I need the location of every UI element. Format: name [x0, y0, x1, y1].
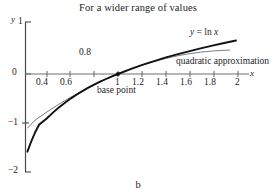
panel-caption: b — [0, 180, 276, 191]
base-point-marker — [116, 72, 120, 76]
ln-curve-annotation-x: x — [214, 27, 218, 37]
x-tick-label-1-6: 1.6 — [180, 78, 192, 88]
quadratic-curve-annotation: quadratic approximation — [176, 57, 269, 67]
ln-curve-annotation-eq: = ln — [194, 27, 214, 37]
y-tick-label-1: 1 — [18, 17, 23, 27]
x-tick-label-2: 2 — [235, 78, 240, 88]
y-axis-label: y — [11, 15, 15, 24]
x-tick-label-1-4: 1.4 — [156, 78, 168, 88]
figure-container: For a wider range of values y x 1 0 −1 −… — [0, 0, 276, 195]
ln-curve-annotation: y = ln x — [190, 28, 218, 38]
base-point-annotation: base point — [97, 86, 136, 96]
x-tick-label-0-4: 0.4 — [36, 78, 48, 88]
ln-quadratic-approximation-plot — [0, 0, 276, 195]
chart-title: For a wider range of values — [0, 3, 276, 14]
x-tick-label-1-8: 1.8 — [204, 78, 216, 88]
y-tick-label-minus2: −2 — [8, 166, 18, 176]
x-axis-label: x — [250, 69, 254, 78]
x-tick-label-0-8: 0.8 — [79, 48, 91, 58]
y-tick-label-0: 0 — [12, 68, 17, 78]
y-tick-label-minus1: −1 — [8, 118, 18, 128]
x-tick-label-0-6: 0.6 — [60, 78, 72, 88]
